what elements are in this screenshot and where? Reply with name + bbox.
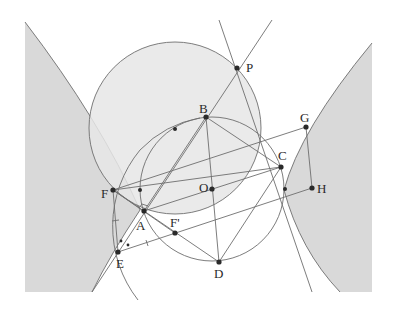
svg-text:G: G <box>300 110 309 125</box>
point-E: E <box>115 249 124 271</box>
point-G: G <box>300 110 309 130</box>
svg-text:O: O <box>199 180 208 195</box>
aux-point <box>127 244 130 247</box>
svg-text:D: D <box>214 266 223 281</box>
svg-text:F: F <box>101 186 108 201</box>
geometry-diagram: P B G C F O H A F' E D <box>0 0 396 312</box>
aux-point <box>120 240 123 243</box>
svg-text:F': F' <box>170 215 180 230</box>
right-hyperbola-branch <box>284 43 372 292</box>
svg-text:A: A <box>136 218 146 233</box>
aux-point <box>283 187 287 191</box>
svg-text:P: P <box>246 60 253 75</box>
svg-text:E: E <box>116 256 124 271</box>
aux-point <box>173 127 177 131</box>
svg-text:B: B <box>199 101 208 116</box>
point-C: C <box>278 148 287 170</box>
svg-text:C: C <box>278 148 287 163</box>
svg-text:H: H <box>317 181 326 196</box>
aux-point <box>138 188 142 192</box>
point-D: D <box>214 259 223 281</box>
